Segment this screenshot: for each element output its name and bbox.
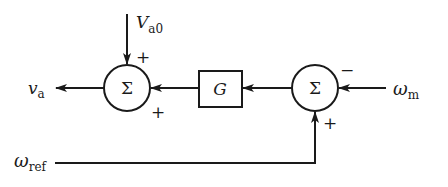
wref-label: ωref xyxy=(14,150,48,174)
block-diagram: Va0 + Σ + va G Σ − + ωm ωref xyxy=(0,0,448,187)
right-summer-sigma: Σ xyxy=(309,78,321,98)
wm-label: ωm xyxy=(393,78,420,102)
right-summer-right-sign: − xyxy=(340,60,354,80)
left-summer-right-sign: + xyxy=(151,102,165,122)
wref-input-arrow xyxy=(55,112,315,163)
left-summer-top-sign: + xyxy=(136,47,150,67)
va0-label: Va0 xyxy=(136,12,163,36)
left-summer-sigma: Σ xyxy=(121,78,133,98)
va-label: va xyxy=(28,78,45,101)
right-summer-bottom-sign: + xyxy=(323,113,337,133)
g-block-label: G xyxy=(213,79,227,99)
